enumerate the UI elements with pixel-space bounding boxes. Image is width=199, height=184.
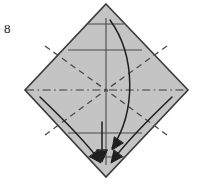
origami-diagram-canvas xyxy=(0,0,199,184)
origami-figure: 8 xyxy=(0,0,199,184)
